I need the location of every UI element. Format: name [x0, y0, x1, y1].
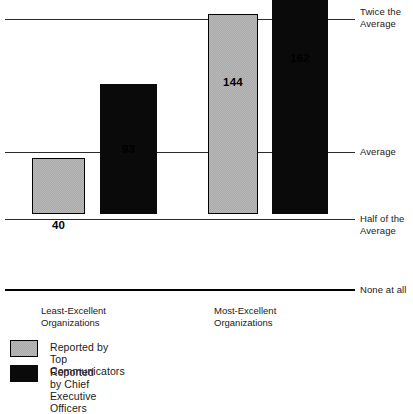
bar-least-excellent-top-communicators — [32, 158, 85, 214]
bar-chart: Twice the Average Average Half of the Av… — [0, 0, 413, 310]
legend-swatch-top-communicators — [10, 340, 38, 357]
axis-label-half-of-the-average: Half of the Average — [360, 213, 404, 236]
bar-value-93: 93 — [100, 143, 157, 155]
category-label-most-excellent-organizations: Most-Excellent Organizations — [214, 305, 334, 329]
axis-label-twice-the-average: Twice the Average — [360, 6, 401, 29]
axis-label-average: Average — [360, 146, 396, 158]
chart-legend: Reported by Top Communicators Reported b… — [0, 336, 413, 386]
category-label-least-excellent-organizations: Least-Excellent Organizations — [41, 305, 161, 329]
legend-swatch-chief-executive-officers — [10, 365, 38, 382]
bar-most-excellent-top-communicators — [208, 14, 258, 214]
legend-label-chief-executive-officers: Reported by Chief Executive Officers — [50, 366, 96, 414]
bar-value-144: 144 — [205, 76, 261, 88]
gridline-none-at-all — [5, 289, 355, 291]
bar-value-162: 162 — [272, 52, 328, 64]
axis-label-none-at-all: None at all — [360, 284, 407, 296]
bar-value-40: 40 — [32, 219, 85, 231]
bar-most-excellent-chief-executive-officers — [272, 0, 328, 214]
